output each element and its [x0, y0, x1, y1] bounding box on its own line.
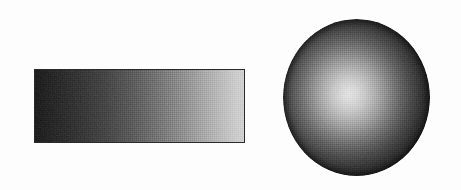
gradient-bar-shape [34, 69, 245, 143]
figure-canvas [0, 0, 461, 190]
gradient-sphere-fill [283, 19, 430, 176]
gradient-bar-fill [35, 70, 244, 142]
gradient-sphere-shape [283, 19, 430, 176]
